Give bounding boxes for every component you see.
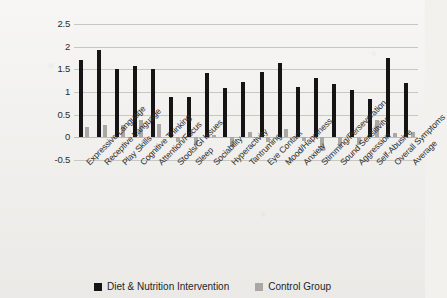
chart-legend: Diet & Nutrition Intervention Control Gr…	[0, 281, 425, 292]
bar	[332, 84, 336, 137]
legend-item-treatment: Diet & Nutrition Intervention	[94, 281, 229, 292]
bar	[85, 127, 89, 137]
bar	[241, 82, 245, 137]
y-axis-tick-label: 0.5	[26, 109, 70, 120]
x-axis-category-labels: Expressive LanguageReceptive LanguagePla…	[74, 160, 418, 256]
bar	[79, 60, 83, 137]
legend-swatch-control	[255, 283, 263, 291]
bar	[97, 50, 101, 137]
bar	[278, 63, 282, 137]
y-axis-tick-label: 1	[26, 86, 70, 97]
bar	[151, 69, 155, 137]
y-axis-tick-labels: 2.521.510.50-0.5	[24, 24, 70, 160]
y-axis-tick-label: 2.5	[26, 18, 70, 29]
y-axis-tick-label: 2	[26, 41, 70, 52]
legend-label-control: Control Group	[268, 281, 331, 292]
bar	[223, 88, 227, 137]
bar-group	[74, 24, 92, 160]
legend-swatch-treatment	[94, 283, 102, 291]
legend-label-treatment: Diet & Nutrition Intervention	[107, 281, 229, 292]
y-axis-tick-label: 0	[26, 131, 70, 142]
y-axis-tick-label: 1.5	[26, 63, 70, 74]
y-axis-tick-label: -0.5	[26, 154, 70, 165]
bar	[103, 125, 107, 138]
bar	[386, 58, 390, 137]
legend-item-control: Control Group	[255, 281, 331, 292]
